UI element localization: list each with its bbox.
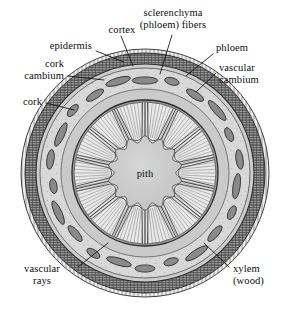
label-xylem: xylem (wood) [233, 263, 287, 286]
fiber-bundle [135, 265, 155, 272]
label-cork-cambium: cork cambium [2, 58, 64, 81]
label-cork: cork [2, 96, 42, 108]
fiber-bundle [132, 77, 158, 84]
label-vascular-cambium: vascular cambium [219, 62, 285, 85]
label-epidermis: epidermis [12, 40, 92, 52]
label-pith: pith [126, 168, 164, 180]
label-phloem: phloem [216, 42, 276, 54]
label-sclerenchyma-fibers: sclerenchyma (phloem) fibers [129, 7, 217, 30]
figure-canvas: cortex sclerenchyma (phloem) fibers epid… [0, 0, 288, 322]
label-vascular-rays: vascular rays [8, 263, 76, 286]
